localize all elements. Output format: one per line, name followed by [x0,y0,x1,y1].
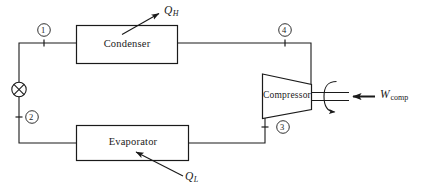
state-label-1: 1 [41,25,45,35]
q-h-label: QH [164,4,178,18]
condenser-label: Condenser [95,38,159,49]
shaft-rotation-arrow-icon [324,82,337,113]
w-comp-label: Wcomp [380,88,408,102]
w-comp-subscript: comp [390,93,409,102]
q-h-subscript: H [172,9,178,18]
diagram-canvas [0,0,425,194]
q-l-label: QL [185,170,198,184]
q-l-subscript: L [193,175,198,184]
pipe-condenser-to-compressor [178,43,312,84]
pipe-evaporator-to-compressor [189,118,266,143]
compressor-shaft [312,93,350,101]
evaporator-label: Evaporator [100,136,166,147]
pipe-valve-to-condenser [19,43,77,83]
state-label-3: 3 [280,122,284,132]
w-comp-symbol: W [380,88,390,100]
refrigeration-cycle-diagram: Condenser Evaporator Compressor 1 2 3 4 … [0,0,425,194]
expansion-valve-icon [12,82,26,96]
compressor-label: Compressor [262,90,312,100]
state-label-4: 4 [282,25,286,35]
state-label-2: 2 [29,112,33,122]
